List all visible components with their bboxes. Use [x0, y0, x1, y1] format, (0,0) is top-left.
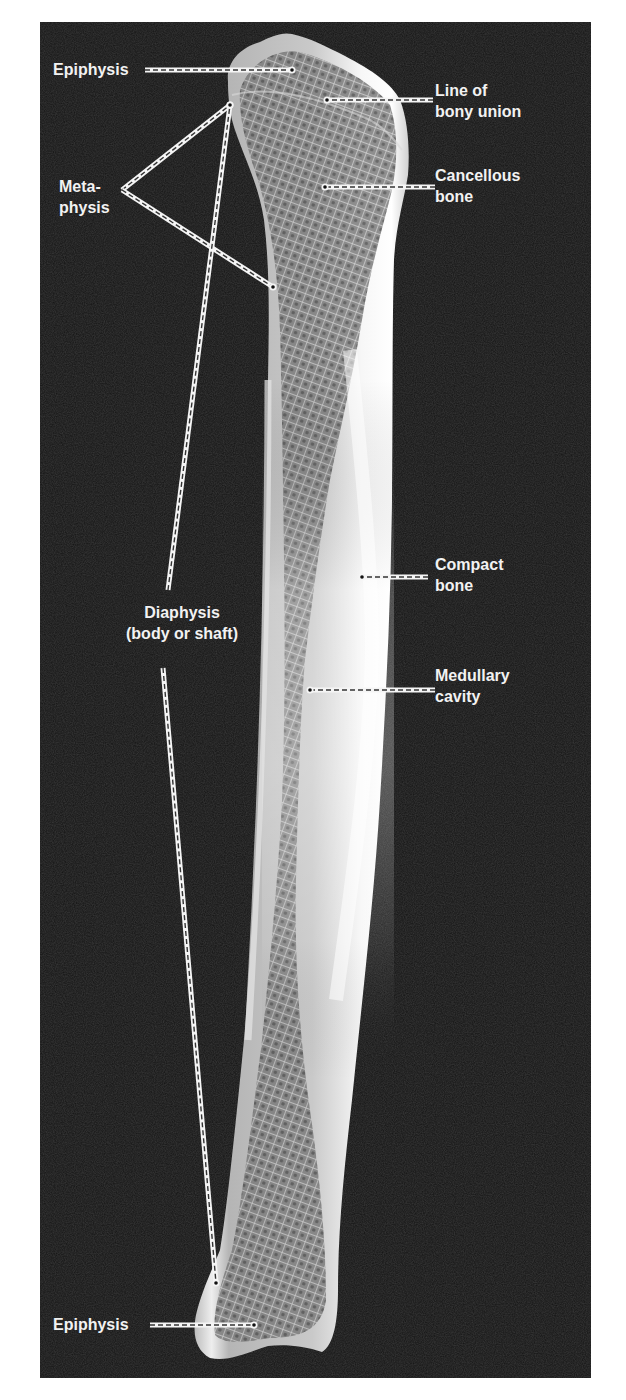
label-line: physis	[59, 197, 110, 218]
leader-endpoint-dot	[252, 1323, 256, 1327]
label-line: Epiphysis	[53, 1314, 129, 1335]
leader-endpoint-dot	[271, 285, 275, 289]
label-line: Epiphysis	[53, 59, 129, 80]
line-of-bony-union-leader	[324, 97, 434, 104]
label-line: Cancellous	[435, 165, 520, 186]
medullary-cavity-leader	[307, 687, 436, 694]
label-compact-bone: Compact bone	[435, 554, 503, 596]
label-line: Medullary	[435, 665, 510, 686]
epiphysis-top-leader	[145, 67, 296, 74]
leader-endpoint-dot	[360, 575, 364, 579]
label-diaphysis: Diaphysis (body or shaft)	[112, 602, 252, 644]
label-line: cavity	[435, 686, 510, 707]
cancellous-bone-leader	[322, 184, 436, 191]
label-line: Meta-	[59, 176, 110, 197]
xray-figure: Epiphysis Meta- physis Line of bony unio…	[40, 22, 591, 1378]
label-line: (body or shaft)	[112, 623, 252, 644]
leader-endpoint-dot	[228, 103, 232, 107]
label-line-of-bony-union: Line of bony union	[435, 80, 521, 122]
label-metaphysis: Meta- physis	[59, 176, 110, 218]
compact-bone-leader	[359, 574, 429, 581]
label-line: Line of	[435, 80, 521, 101]
label-line: bone	[435, 186, 520, 207]
label-line: Diaphysis	[112, 602, 252, 623]
leader-endpoint-dot	[323, 185, 327, 189]
label-line: Compact	[435, 554, 503, 575]
label-cancellous-bone: Cancellous bone	[435, 165, 520, 207]
leader-endpoint-dot	[325, 98, 329, 102]
leader-endpoint-dot	[214, 1281, 218, 1285]
label-line: bone	[435, 575, 503, 596]
leader-endpoint-dot	[290, 68, 294, 72]
epiphysis-bottom-leader	[150, 1322, 258, 1329]
label-medullary-cavity: Medullary cavity	[435, 665, 510, 707]
label-epiphysis-bottom: Epiphysis	[53, 1314, 129, 1335]
label-line: bony union	[435, 101, 521, 122]
leader-endpoint-dot	[308, 688, 312, 692]
label-epiphysis-top: Epiphysis	[53, 59, 129, 80]
